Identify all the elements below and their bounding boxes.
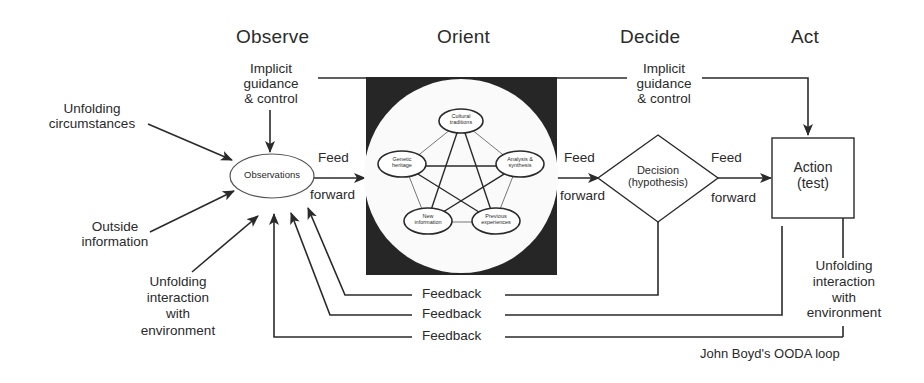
act-unfolding-interaction: Unfolding interaction with environment bbox=[796, 258, 892, 321]
forward-label-3: forward bbox=[711, 190, 756, 205]
node-genetic-label: Geneticheritage bbox=[382, 157, 422, 169]
arrow-unfolding-circumstances bbox=[148, 124, 232, 160]
node-previous-experiences-label: Previousexperiences bbox=[476, 214, 516, 226]
phase-decide: Decide bbox=[620, 26, 680, 47]
feed-label-1: Feed bbox=[318, 150, 349, 165]
phase-act: Act bbox=[791, 26, 819, 47]
implicit-guidance-observe-label: Implicit guidance & control bbox=[238, 61, 304, 106]
decision-label: Decision (hypothesis) bbox=[618, 164, 698, 189]
implicit-guidance-arrow-act bbox=[702, 78, 808, 135]
feedback-label-2: Feedback bbox=[422, 306, 481, 321]
node-analysis-label: Analysis &synthesis bbox=[500, 157, 540, 169]
phase-orient: Orient bbox=[437, 26, 490, 47]
implicit-guidance-decide-label: Implicit guidance & control bbox=[628, 61, 700, 106]
arrow-unfolding-interaction bbox=[192, 216, 258, 272]
input-unfolding-interaction: Unfolding interaction with environment bbox=[128, 274, 228, 339]
node-cultural-label: Culturaltraditions bbox=[441, 114, 481, 126]
feedback-label-1: Feedback bbox=[422, 286, 481, 301]
forward-label-2: forward bbox=[560, 188, 605, 203]
feed-label-2: Feed bbox=[564, 150, 595, 165]
node-new-information-label: Newinformation bbox=[408, 214, 448, 226]
observations-label: Observations bbox=[232, 170, 312, 181]
phase-observe: Observe bbox=[236, 26, 309, 47]
feed-label-3: Feed bbox=[711, 150, 742, 165]
diagram-caption: John Boyd's OODA loop bbox=[700, 347, 840, 362]
forward-label-1: forward bbox=[310, 187, 355, 202]
ooda-loop-diagram: Observe Orient Decide Act Implicit guida… bbox=[0, 0, 924, 383]
input-outside-information: Outside information bbox=[70, 219, 160, 249]
arrow-outside-information bbox=[150, 191, 234, 232]
feedback-label-3: Feedback bbox=[422, 328, 481, 343]
input-unfolding-circumstances: Unfolding circumstances bbox=[34, 101, 150, 131]
action-label: Action (test) bbox=[772, 160, 854, 191]
